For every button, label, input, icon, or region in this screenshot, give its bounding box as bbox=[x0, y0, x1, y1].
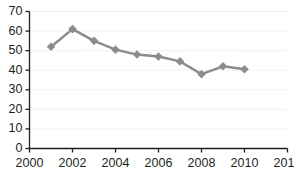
data-point-marker bbox=[154, 52, 163, 61]
y-axis-tick-label: 60 bbox=[9, 25, 23, 38]
y-axis-tick-label: 10 bbox=[9, 122, 23, 135]
line-chart: 0102030405060702000200220042006200820102… bbox=[0, 0, 294, 171]
y-axis-tick-label: 30 bbox=[9, 83, 23, 96]
x-axis-tick-label: 2000 bbox=[8, 157, 52, 170]
data-point-marker bbox=[111, 45, 120, 54]
data-point-marker bbox=[133, 50, 142, 59]
y-axis-tick-label: 0 bbox=[16, 142, 23, 155]
x-axis-tick-label: 2006 bbox=[137, 157, 181, 170]
x-axis-tick-label: 2012 bbox=[266, 157, 295, 170]
y-axis-tick-label: 50 bbox=[9, 44, 23, 57]
data-point-marker bbox=[90, 37, 99, 46]
y-axis-tick-label: 20 bbox=[9, 103, 23, 116]
series-line bbox=[51, 29, 245, 74]
y-axis-tick-label: 70 bbox=[9, 5, 23, 18]
x-axis-tick-label: 2002 bbox=[51, 157, 95, 170]
plot-area bbox=[0, 0, 294, 171]
y-axis-tick-label: 40 bbox=[9, 64, 23, 77]
x-axis-tick-label: 2010 bbox=[223, 157, 267, 170]
x-axis-tick-label: 2004 bbox=[94, 157, 138, 170]
data-point-marker bbox=[219, 62, 228, 71]
axes bbox=[26, 12, 288, 153]
x-axis-tick-label: 2008 bbox=[180, 157, 224, 170]
data-point-marker bbox=[240, 65, 249, 74]
